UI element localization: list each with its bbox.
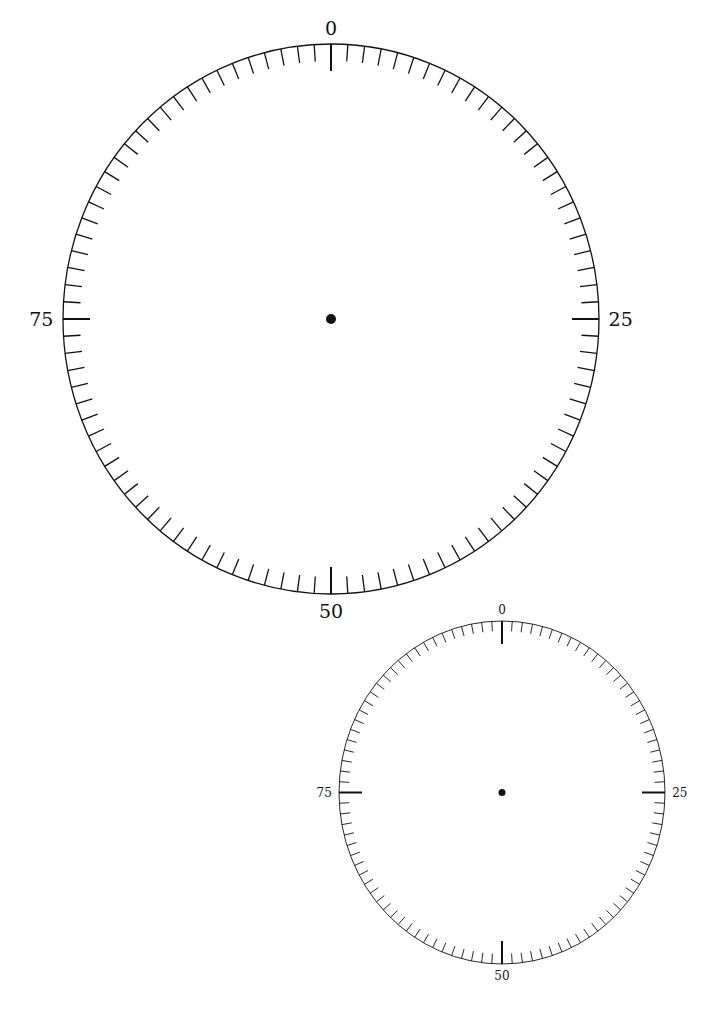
minor-tick	[393, 569, 397, 585]
minor-tick	[406, 923, 412, 931]
minor-tick	[362, 46, 364, 63]
minor-tick	[636, 710, 645, 715]
minor-tick	[582, 335, 599, 336]
minor-tick	[442, 943, 446, 952]
minor-tick	[640, 861, 649, 865]
minor-tick	[96, 443, 111, 451]
minor-tick	[423, 642, 428, 651]
minor-tick	[524, 484, 537, 495]
minor-tick	[406, 654, 412, 662]
minor-tick	[578, 367, 595, 370]
minor-tick	[512, 954, 513, 964]
minor-tick	[650, 750, 660, 752]
minor-tick	[491, 518, 502, 531]
minor-tick	[558, 202, 573, 209]
minor-tick	[613, 903, 620, 910]
minor-tick	[232, 559, 238, 575]
minor-tick	[580, 351, 597, 353]
minor-tick	[551, 443, 566, 451]
minor-tick	[173, 528, 183, 542]
minor-tick	[492, 954, 493, 964]
minor-tick	[578, 267, 595, 270]
minor-tick	[423, 63, 429, 79]
minor-tick	[584, 648, 590, 656]
minor-tick	[540, 626, 543, 636]
minor-tick	[344, 750, 354, 752]
minor-tick	[465, 87, 474, 101]
minor-tick	[652, 760, 662, 762]
minor-tick	[592, 654, 598, 662]
minor-tick	[644, 852, 653, 856]
minor-tick	[574, 251, 590, 255]
minor-tick	[364, 879, 373, 884]
minor-tick	[105, 172, 119, 181]
minor-tick	[558, 429, 573, 436]
minor-tick	[187, 87, 196, 101]
minor-tick	[383, 675, 390, 682]
minor-tick	[65, 285, 82, 287]
minor-tick	[297, 575, 299, 592]
dial-label-75: 75	[317, 786, 332, 800]
minor-tick	[347, 740, 357, 743]
minor-tick	[160, 107, 171, 120]
minor-tick	[564, 218, 580, 224]
minor-tick	[408, 564, 413, 580]
minor-tick	[584, 929, 590, 937]
minor-tick	[647, 843, 657, 846]
minor-tick	[340, 771, 350, 772]
minor-tick	[342, 760, 352, 762]
dial-label-0: 0	[498, 603, 506, 617]
minor-tick	[173, 97, 183, 111]
minor-tick	[64, 302, 81, 303]
minor-tick	[114, 471, 128, 481]
minor-tick	[655, 782, 665, 783]
minor-tick	[297, 46, 299, 63]
minor-tick	[398, 917, 405, 925]
minor-tick	[232, 63, 238, 79]
minor-tick	[248, 564, 253, 580]
minor-tick	[136, 496, 149, 507]
minor-tick	[524, 144, 537, 155]
minor-tick	[576, 642, 581, 651]
minor-tick	[248, 57, 253, 73]
minor-tick	[503, 507, 515, 519]
minor-tick	[347, 843, 357, 846]
minor-tick	[438, 70, 445, 85]
minor-tick	[370, 692, 378, 698]
minor-tick	[359, 710, 368, 715]
minor-tick	[567, 637, 571, 646]
minor-tick	[652, 823, 662, 825]
minor-tick	[136, 131, 149, 142]
minor-tick	[570, 399, 586, 404]
minor-tick	[71, 383, 87, 387]
minor-tick	[452, 946, 455, 955]
minor-tick	[461, 949, 464, 959]
minor-tick	[125, 144, 138, 155]
minor-tick	[438, 553, 445, 568]
minor-tick	[531, 951, 533, 961]
minor-tick	[576, 934, 581, 943]
minor-tick	[654, 813, 664, 814]
minor-tick	[631, 701, 640, 706]
minor-tick	[408, 57, 413, 73]
dial-label-25: 25	[672, 786, 687, 800]
dial-diagram: 0255075 0255075	[0, 0, 725, 1014]
minor-tick	[415, 648, 421, 656]
minor-tick	[376, 896, 384, 902]
minor-tick	[281, 49, 284, 66]
minor-tick	[531, 624, 533, 634]
minor-tick	[65, 351, 82, 353]
minor-tick	[89, 429, 104, 436]
minor-tick	[68, 267, 85, 270]
minor-tick	[376, 683, 384, 689]
minor-tick	[570, 234, 586, 239]
minor-tick	[574, 383, 590, 387]
minor-tick	[461, 626, 464, 636]
minor-tick	[415, 929, 421, 937]
minor-tick	[378, 572, 381, 589]
minor-tick	[549, 946, 552, 955]
minor-tick	[433, 939, 437, 948]
minor-tick	[620, 683, 628, 689]
minor-tick	[478, 528, 488, 542]
minor-tick	[364, 701, 373, 706]
